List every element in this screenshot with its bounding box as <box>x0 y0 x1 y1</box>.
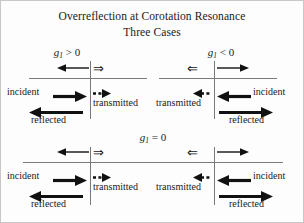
incident-arrow-right-icon-bottom-left <box>53 175 87 186</box>
case-label-g1-negative: g1 < 0 <box>191 46 251 60</box>
reflected-label-bottom-right: reflected <box>229 198 264 209</box>
double-arrow-right-icon-bottom: ⇒ <box>93 146 104 159</box>
incident-label-top-right: incident <box>253 86 285 97</box>
reflected-label-top-right: reflected <box>229 114 264 125</box>
resonance-line-bottom-left <box>90 147 91 205</box>
incident-arrow-right-icon-top-left <box>53 91 87 102</box>
case-relation: > 0 <box>66 46 80 58</box>
double-arrow-left-icon-bottom: ⇐ <box>187 146 198 159</box>
case-label-g1-zero: g1 = 0 <box>121 131 185 145</box>
horizontal-axis-top-left <box>29 78 147 79</box>
incident-arrow-left-icon-bottom-right <box>217 175 251 186</box>
group-velocity-arrow-right-icon <box>217 63 249 73</box>
reflected-label-top-left: reflected <box>31 114 66 125</box>
double-arrow-left-icon: ⇐ <box>187 62 198 75</box>
case-relation: < 0 <box>220 46 234 58</box>
incident-arrow-left-icon-top-right <box>217 91 251 102</box>
figure-subtitle: Three Cases <box>1 26 303 38</box>
horizontal-axis-bottom <box>23 162 283 163</box>
case-relation: = 0 <box>152 131 166 143</box>
case-variable-subscript: 1 <box>145 136 149 145</box>
case-label-g1-positive: g1 > 0 <box>37 46 97 60</box>
figure-title: Overreflection at Corotation Resonance <box>1 10 303 22</box>
group-velocity-arrow-right-icon-bottom <box>217 147 249 157</box>
group-velocity-arrow-left-icon-bottom <box>57 147 89 157</box>
incident-label-bottom-right: incident <box>253 170 285 181</box>
case-variable-subscript: 1 <box>59 51 63 60</box>
resonance-line-bottom-right <box>214 147 215 205</box>
transmitted-label-bottom-left: transmitted <box>93 181 138 192</box>
transmitted-label-bottom-right: transmitted <box>156 181 201 192</box>
figure-canvas: Overreflection at Corotation Resonance T… <box>0 0 304 223</box>
double-arrow-right-icon: ⇒ <box>93 62 104 75</box>
reflected-label-bottom-left: reflected <box>31 198 66 209</box>
incident-label-top-left: incident <box>7 86 39 97</box>
resonance-line-top-right <box>214 61 215 119</box>
transmitted-label-top-left: transmitted <box>93 97 138 108</box>
incident-label-bottom-left: incident <box>7 170 39 181</box>
group-velocity-arrow-left-icon <box>57 63 89 73</box>
horizontal-axis-top-right <box>159 78 277 79</box>
case-variable-subscript: 1 <box>213 51 217 60</box>
resonance-line-top-left <box>90 61 91 119</box>
transmitted-label-top-right: transmitted <box>156 97 201 108</box>
